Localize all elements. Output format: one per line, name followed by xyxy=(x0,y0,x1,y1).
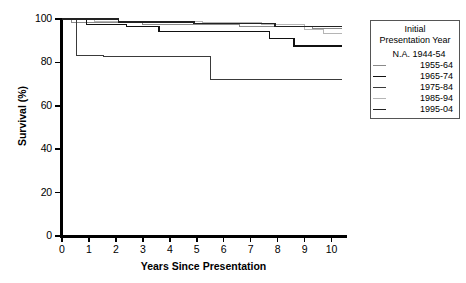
x-tick-mark xyxy=(115,237,117,242)
x-tick-label: 7 xyxy=(241,243,261,255)
x-tick-label: 4 xyxy=(160,243,180,255)
y-tick-mark xyxy=(55,148,60,150)
y-tick-label: 0 xyxy=(26,229,52,241)
plot-area xyxy=(62,19,345,236)
x-tick-mark xyxy=(196,237,198,242)
y-tick-mark xyxy=(55,235,60,237)
x-tick-label: 9 xyxy=(295,243,315,255)
x-tick-mark xyxy=(169,237,171,242)
x-tick-mark xyxy=(250,237,252,242)
y-tick-label: 100 xyxy=(26,12,52,24)
legend-item: 1965-74 xyxy=(373,70,457,81)
survival-curves xyxy=(62,19,345,236)
legend-item-label: 1995-04 xyxy=(389,104,457,114)
legend-entries: N.A. 1944-541955-641965-741975-841985-94… xyxy=(373,48,457,114)
y-tick-label: 60 xyxy=(26,99,52,111)
y-axis-title: Survival (%) xyxy=(16,46,28,186)
x-tick-label: 3 xyxy=(133,243,153,255)
legend-title: Initial Presentation Year xyxy=(373,24,457,46)
legend-item: 1985-94 xyxy=(373,92,457,103)
legend-swatch-line-icon xyxy=(373,92,386,103)
legend-item-label: 1975-84 xyxy=(389,82,457,92)
x-tick-label: 5 xyxy=(187,243,207,255)
x-tick-mark xyxy=(223,237,225,242)
y-tick-mark xyxy=(55,105,60,107)
legend-item: 1955-64 xyxy=(373,59,457,70)
y-tick-mark xyxy=(55,62,60,64)
legend-swatch-line-icon xyxy=(373,59,386,70)
y-tick-mark xyxy=(55,192,60,194)
legend: Initial Presentation Year N.A. 1944-5419… xyxy=(370,20,460,119)
legend-item: N.A. 1944-54 xyxy=(373,48,457,59)
legend-item-label: 1985-94 xyxy=(389,93,457,103)
legend-swatch-line-icon xyxy=(373,70,386,81)
legend-swatch-line-icon xyxy=(373,81,386,92)
x-tick-mark xyxy=(277,237,279,242)
legend-item-label: 1955-64 xyxy=(389,60,457,70)
chart-root: 020406080100 012345678910 Survival (%) Y… xyxy=(0,0,466,283)
legend-swatch-line-icon xyxy=(373,103,386,114)
legend-item: 1975-84 xyxy=(373,81,457,92)
y-tick-label: 40 xyxy=(26,142,52,154)
legend-title-line-2: Presentation Year xyxy=(373,35,457,46)
legend-item-label: N.A. 1944-54 xyxy=(389,49,457,59)
x-tick-label: 0 xyxy=(52,243,72,255)
legend-item-label: 1965-74 xyxy=(389,71,457,81)
legend-item: 1995-04 xyxy=(373,103,457,114)
y-tick-label: 80 xyxy=(26,55,52,67)
survival-curve-1975-84 xyxy=(62,19,342,80)
x-tick-label: 6 xyxy=(214,243,234,255)
legend-title-line-1: Initial xyxy=(373,24,457,35)
x-tick-mark xyxy=(61,237,63,242)
x-tick-mark xyxy=(304,237,306,242)
x-tick-mark xyxy=(142,237,144,242)
x-tick-label: 1 xyxy=(79,243,99,255)
x-tick-label: 10 xyxy=(322,243,342,255)
y-tick-mark xyxy=(55,18,60,20)
x-tick-mark xyxy=(88,237,90,242)
y-tick-label: 20 xyxy=(26,186,52,198)
x-tick-label: 2 xyxy=(106,243,126,255)
x-axis-title: Years Since Presentation xyxy=(60,260,347,272)
x-tick-label: 8 xyxy=(268,243,288,255)
x-tick-mark xyxy=(331,237,333,242)
